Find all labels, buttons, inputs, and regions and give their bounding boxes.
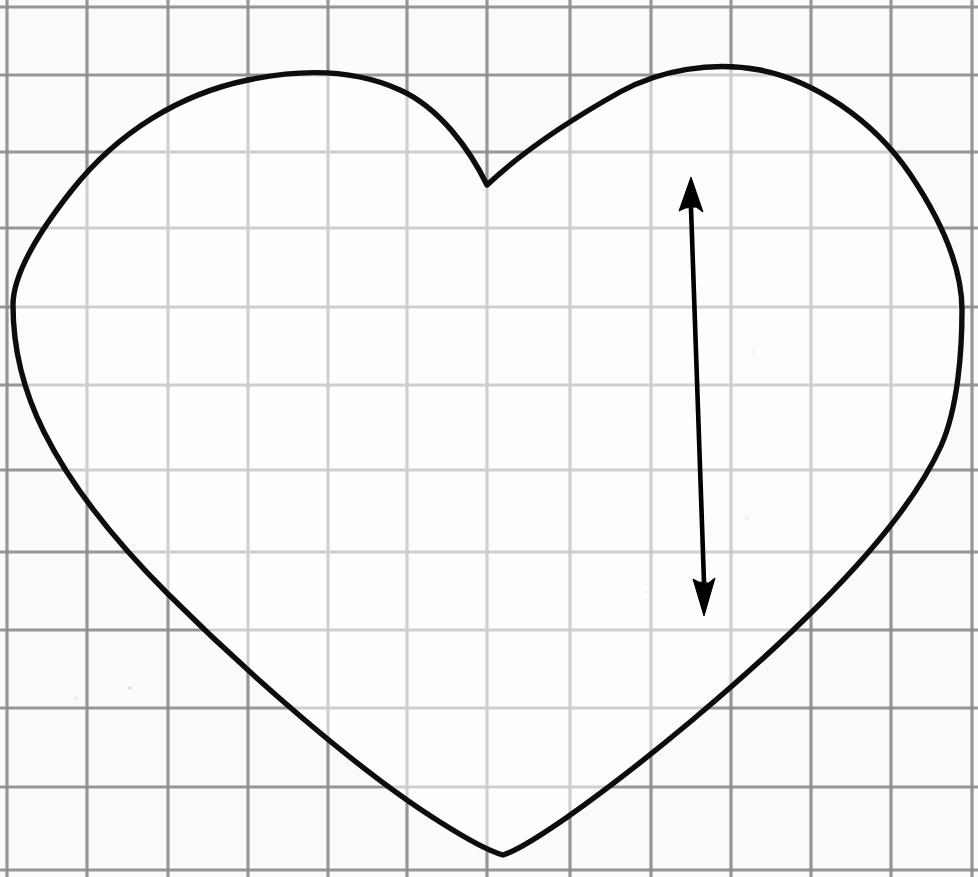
grid-paper-canvas bbox=[0, 0, 978, 877]
drawing-surface bbox=[0, 0, 978, 877]
